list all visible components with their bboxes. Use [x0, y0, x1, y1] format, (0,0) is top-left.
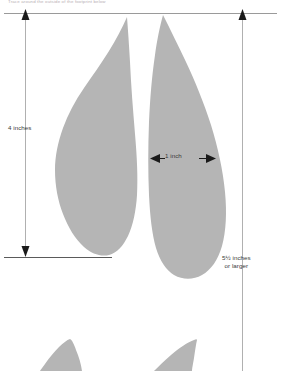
dimension-height-left: [22, 9, 30, 257]
diagram-canvas: Trace around the outside of the footprin…: [0, 0, 281, 371]
footprint-shapes: [40, 15, 226, 371]
dimension-label-height-right: 5½ inches or larger: [222, 254, 251, 270]
dimension-label-height-left: 4 inches: [8, 124, 31, 131]
arrow-up-icon-right: [239, 9, 247, 20]
right-heel-shape: [154, 339, 197, 371]
footprint-diagram: [0, 0, 281, 371]
arrow-down-icon: [22, 246, 30, 257]
dimension-height-right: [239, 9, 247, 371]
dimension-label-width-top: 1 inch: [165, 152, 182, 159]
arrow-up-icon: [22, 9, 30, 20]
dimension-label-height-right-line1: 5½ inches: [222, 254, 251, 262]
right-forefoot-shape: [148, 15, 226, 279]
left-forefoot-shape: [55, 17, 137, 256]
dimension-label-height-right-line2: or larger: [222, 262, 251, 270]
left-heel-shape: [40, 339, 82, 371]
rule-lines: [4, 14, 277, 258]
